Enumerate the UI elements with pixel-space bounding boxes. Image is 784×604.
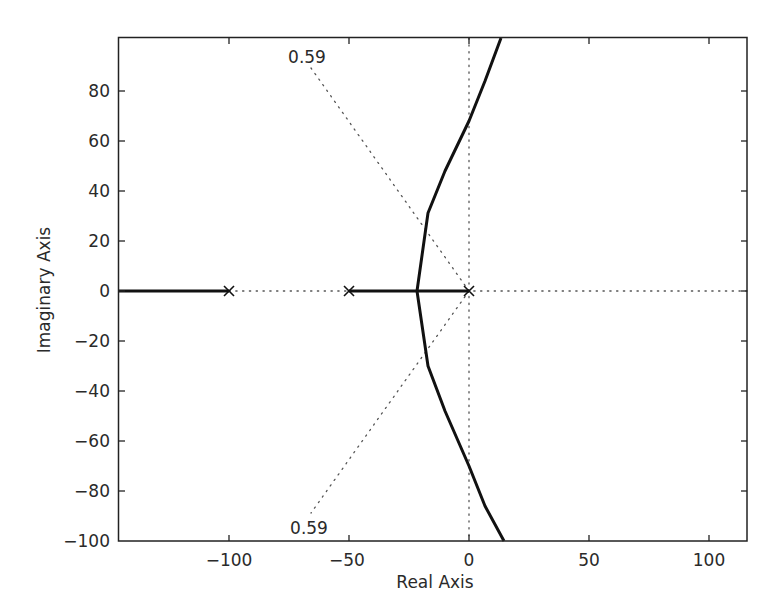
- damping-ratio-label-lower: 0.59: [290, 518, 328, 538]
- y-axis-label: Imaginary Axis: [34, 227, 54, 354]
- y-tick-label: 0: [99, 281, 110, 301]
- y-tick-label: 40: [88, 181, 110, 201]
- x-tick-label: −100: [206, 550, 253, 570]
- root-locus-chart: −100 −50 0 50 100 −100 −80 −60 −40 −20 0…: [0, 0, 784, 604]
- damping-line-upper: [311, 68, 469, 291]
- y-tick-label: 20: [88, 231, 110, 251]
- y-tick-labels: −100 −80 −60 −40 −20 0 20 40 60 80: [63, 81, 110, 551]
- x-tick-label: 50: [578, 550, 600, 570]
- reference-lines: [229, 38, 747, 541]
- y-tick-label: −80: [74, 481, 110, 501]
- x-tick-label: 100: [693, 550, 725, 570]
- x-tick-label: −50: [329, 550, 365, 570]
- y-tick-label: 80: [88, 81, 110, 101]
- plot-frame: [119, 38, 748, 542]
- locus-lower-branch: [417, 291, 504, 541]
- y-tick-label: 60: [88, 131, 110, 151]
- y-tick-label: −40: [74, 381, 110, 401]
- x-tick-label: 0: [464, 550, 475, 570]
- x-axis-label: Real Axis: [396, 572, 473, 592]
- locus-branches: [119, 38, 504, 541]
- x-tick-labels: −100 −50 0 50 100: [206, 550, 726, 570]
- damping-ratio-label-upper: 0.59: [288, 47, 326, 67]
- locus-upper-branch: [417, 38, 501, 291]
- damping-line-lower: [311, 291, 469, 513]
- y-tick-label: −20: [74, 331, 110, 351]
- y-tick-label: −100: [63, 531, 110, 551]
- y-tick-label: −60: [74, 431, 110, 451]
